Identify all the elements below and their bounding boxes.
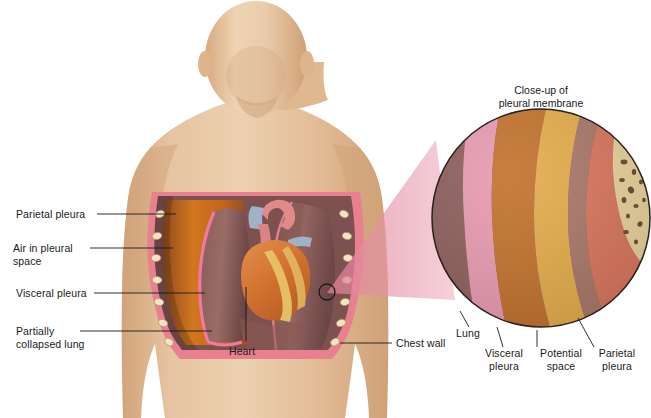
- leader-closeup-visceral: [497, 327, 503, 347]
- label-closeup-potential-space: Potential space: [533, 347, 589, 372]
- label-closeup-lung: Lung: [446, 327, 490, 340]
- ear-left: [198, 51, 212, 77]
- closeup-circle: [432, 109, 650, 327]
- label-air-in-pleural-space: Air in pleural space: [13, 242, 73, 267]
- label-chest-wall: Chest wall: [396, 337, 445, 350]
- label-visceral-pleura: Visceral pleura: [16, 287, 87, 300]
- label-closeup-visceral-pleura: Visceral pleura: [478, 347, 530, 372]
- closeup-title: Close-up of pleural membrane: [470, 84, 612, 109]
- ear-right: [300, 51, 314, 77]
- leader-closeup-parietal: [578, 318, 594, 347]
- label-heart: Heart: [229, 345, 255, 358]
- illustration-canvas: Close-up of pleural membrane Parietal pl…: [0, 0, 651, 418]
- label-partially-collapsed-lung: Partially collapsed lung: [16, 325, 85, 350]
- label-closeup-parietal-pleura: Parietal pleura: [591, 347, 643, 372]
- leader-closeup-lung: [460, 311, 469, 327]
- label-parietal-pleura: Parietal pleura: [16, 208, 85, 221]
- thoracic-cavity: [147, 190, 370, 365]
